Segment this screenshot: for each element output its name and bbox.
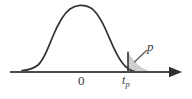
tail-label-leader-line bbox=[135, 51, 147, 63]
critical-value-base: t bbox=[122, 73, 125, 87]
axis-arrowhead-icon bbox=[169, 67, 182, 77]
shaded-tail-region bbox=[128, 53, 152, 73]
critical-value-subscript: p bbox=[126, 79, 130, 89]
mean-label: 0 bbox=[78, 74, 85, 87]
critical-value-label: tp bbox=[122, 74, 130, 88]
tail-area-label: p bbox=[147, 40, 154, 53]
distribution-figure: 0 tp p bbox=[0, 0, 192, 99]
distribution-plot-svg bbox=[0, 0, 192, 99]
